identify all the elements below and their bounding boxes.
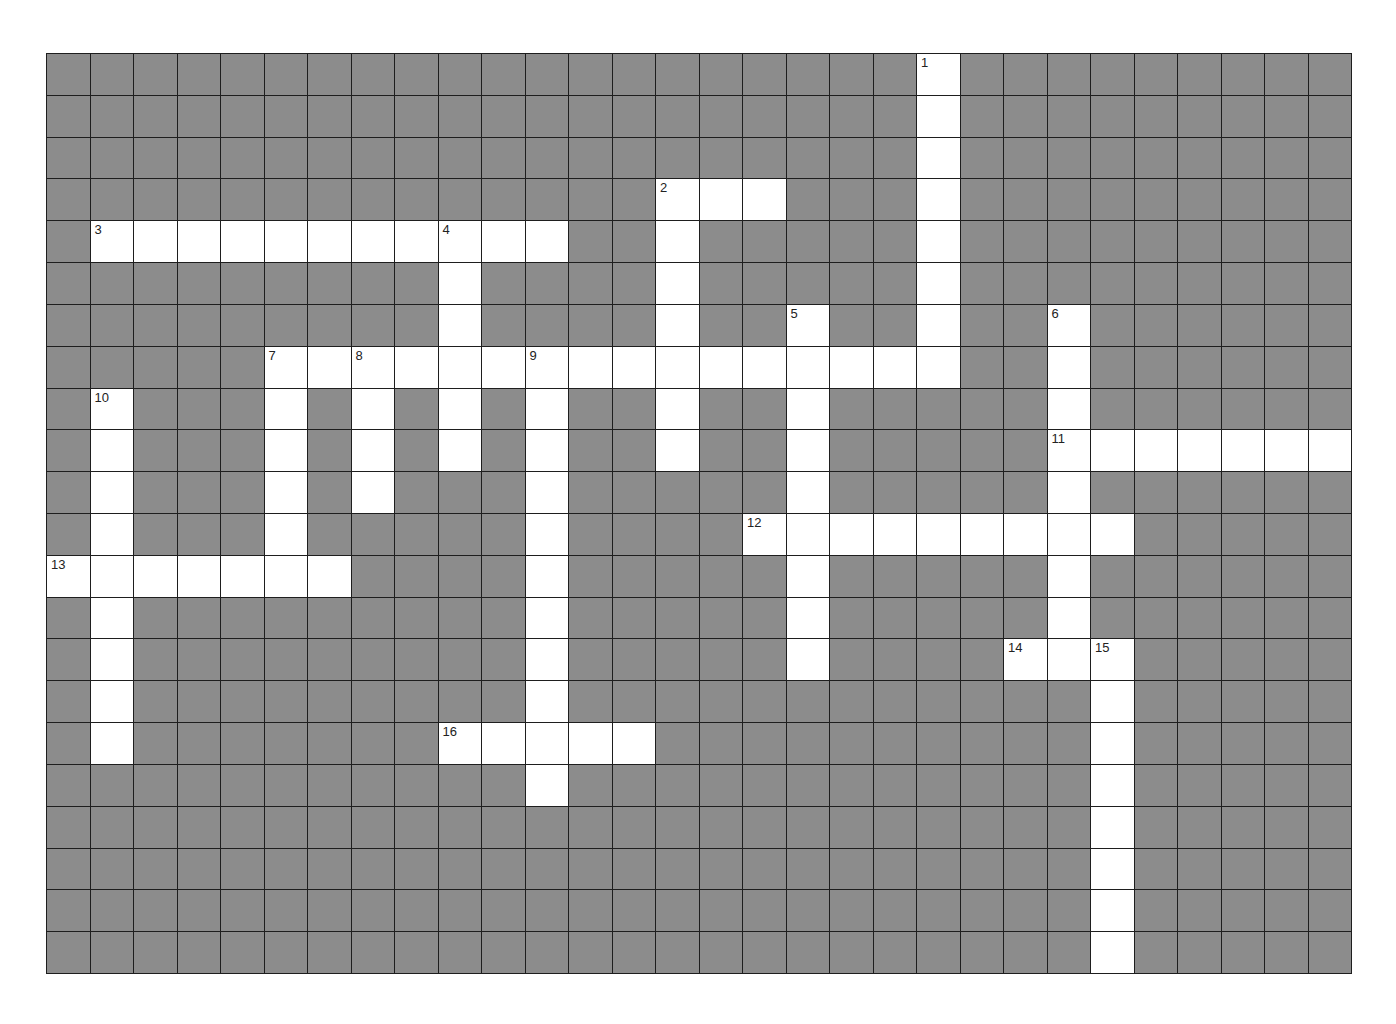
answer-cell[interactable]: 1: [917, 54, 960, 95]
answer-cell[interactable]: [91, 639, 134, 680]
answer-cell[interactable]: [265, 389, 308, 430]
answer-cell[interactable]: [395, 347, 438, 388]
answer-cell[interactable]: 11: [1048, 430, 1091, 471]
answer-cell[interactable]: [91, 514, 134, 555]
answer-cell[interactable]: [1048, 598, 1091, 639]
answer-cell[interactable]: [526, 514, 569, 555]
answer-cell[interactable]: [265, 556, 308, 597]
answer-cell[interactable]: [1048, 514, 1091, 555]
answer-cell[interactable]: [961, 514, 1004, 555]
answer-cell[interactable]: [221, 221, 264, 262]
answer-cell[interactable]: [787, 472, 830, 513]
answer-cell[interactable]: [1091, 430, 1134, 471]
answer-cell[interactable]: 6: [1048, 305, 1091, 346]
answer-cell[interactable]: [526, 765, 569, 806]
answer-cell[interactable]: [265, 430, 308, 471]
answer-cell[interactable]: [439, 389, 482, 430]
answer-cell[interactable]: [700, 179, 743, 220]
answer-cell[interactable]: [91, 723, 134, 764]
answer-cell[interactable]: 12: [743, 514, 786, 555]
answer-cell[interactable]: [874, 514, 917, 555]
answer-cell[interactable]: [743, 179, 786, 220]
answer-cell[interactable]: [830, 514, 873, 555]
answer-cell[interactable]: [265, 514, 308, 555]
answer-cell[interactable]: [656, 263, 699, 304]
answer-cell[interactable]: 7: [265, 347, 308, 388]
answer-cell[interactable]: [1048, 639, 1091, 680]
answer-cell[interactable]: [700, 347, 743, 388]
answer-cell[interactable]: [526, 556, 569, 597]
answer-cell[interactable]: [1178, 430, 1221, 471]
answer-cell[interactable]: [1048, 472, 1091, 513]
answer-cell[interactable]: [1091, 849, 1134, 890]
answer-cell[interactable]: [917, 138, 960, 179]
answer-cell[interactable]: [1222, 430, 1265, 471]
answer-cell[interactable]: [265, 472, 308, 513]
answer-cell[interactable]: [1265, 430, 1308, 471]
answer-cell[interactable]: [526, 221, 569, 262]
answer-cell[interactable]: [308, 556, 351, 597]
answer-cell[interactable]: 4: [439, 221, 482, 262]
answer-cell[interactable]: [874, 347, 917, 388]
answer-cell[interactable]: [917, 221, 960, 262]
answer-cell[interactable]: [569, 723, 612, 764]
answer-cell[interactable]: [656, 221, 699, 262]
answer-cell[interactable]: 8: [352, 347, 395, 388]
answer-cell[interactable]: 14: [1004, 639, 1047, 680]
answer-cell[interactable]: [308, 347, 351, 388]
answer-cell[interactable]: [439, 305, 482, 346]
answer-cell[interactable]: 2: [656, 179, 699, 220]
answer-cell[interactable]: [91, 472, 134, 513]
answer-cell[interactable]: [526, 639, 569, 680]
answer-cell[interactable]: [1004, 514, 1047, 555]
answer-cell[interactable]: [1309, 430, 1352, 471]
answer-cell[interactable]: [787, 347, 830, 388]
answer-cell[interactable]: [656, 430, 699, 471]
answer-cell[interactable]: [1091, 807, 1134, 848]
answer-cell[interactable]: [482, 347, 525, 388]
answer-cell[interactable]: [526, 681, 569, 722]
answer-cell[interactable]: [787, 556, 830, 597]
answer-cell[interactable]: [178, 221, 221, 262]
answer-cell[interactable]: [1091, 514, 1134, 555]
answer-cell[interactable]: [91, 556, 134, 597]
answer-cell[interactable]: [656, 305, 699, 346]
answer-cell[interactable]: [613, 723, 656, 764]
answer-cell[interactable]: [1091, 932, 1134, 973]
answer-cell[interactable]: 15: [1091, 639, 1134, 680]
answer-cell[interactable]: 16: [439, 723, 482, 764]
answer-cell[interactable]: [1135, 430, 1178, 471]
answer-cell[interactable]: [787, 389, 830, 430]
answer-cell[interactable]: [352, 389, 395, 430]
answer-cell[interactable]: [439, 263, 482, 304]
answer-cell[interactable]: [221, 556, 264, 597]
answer-cell[interactable]: [656, 389, 699, 430]
answer-cell[interactable]: [91, 598, 134, 639]
answer-cell[interactable]: [1091, 765, 1134, 806]
answer-cell[interactable]: [482, 221, 525, 262]
answer-cell[interactable]: [526, 598, 569, 639]
answer-cell[interactable]: [395, 221, 438, 262]
answer-cell[interactable]: [352, 472, 395, 513]
answer-cell[interactable]: [352, 430, 395, 471]
answer-cell[interactable]: [1048, 347, 1091, 388]
answer-cell[interactable]: 5: [787, 305, 830, 346]
answer-cell[interactable]: [265, 221, 308, 262]
answer-cell[interactable]: [134, 221, 177, 262]
answer-cell[interactable]: [917, 96, 960, 137]
answer-cell[interactable]: [352, 221, 395, 262]
answer-cell[interactable]: 9: [526, 347, 569, 388]
answer-cell[interactable]: [482, 723, 525, 764]
answer-cell[interactable]: [787, 598, 830, 639]
answer-cell[interactable]: [1091, 890, 1134, 931]
answer-cell[interactable]: [787, 430, 830, 471]
answer-cell[interactable]: [91, 681, 134, 722]
answer-cell[interactable]: [178, 556, 221, 597]
answer-cell[interactable]: [526, 723, 569, 764]
answer-cell[interactable]: [656, 347, 699, 388]
answer-cell[interactable]: [526, 472, 569, 513]
answer-cell[interactable]: [134, 556, 177, 597]
answer-cell[interactable]: [787, 514, 830, 555]
answer-cell[interactable]: [1048, 389, 1091, 430]
answer-cell[interactable]: [743, 347, 786, 388]
